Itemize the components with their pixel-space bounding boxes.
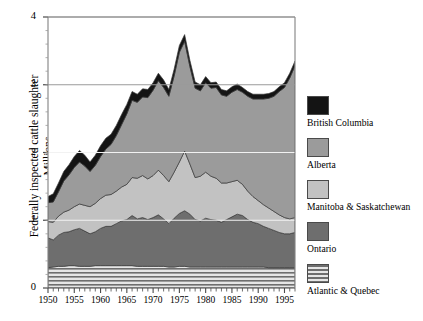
legend-label: Alberta (307, 159, 336, 170)
y-tick-label: 4 (22, 10, 36, 21)
legend-label: British Columbia (307, 117, 373, 128)
legend-label: Atlantic & Quebec (307, 285, 379, 296)
legend-item: Alberta (307, 138, 336, 170)
x-tick-label: 1995 (269, 295, 299, 305)
area-atlantic-quebec (48, 266, 295, 288)
chart-figure: Federally inspected cattle slaughter Mil… (0, 0, 423, 321)
legend-swatch (307, 96, 329, 115)
legend-swatch (307, 180, 329, 199)
legend-item: Atlantic & Quebec (307, 264, 379, 296)
y-tick-label: 2 (22, 146, 36, 157)
legend-swatch (307, 222, 329, 241)
y-tick-label: 1 (22, 213, 36, 224)
legend-label: Ontario (307, 243, 336, 254)
legend-item: British Columbia (307, 96, 373, 128)
y-tick-label: 0 (22, 281, 36, 292)
legend-swatch (307, 138, 329, 157)
legend-label: Manitoba & Saskatchewan (307, 201, 410, 212)
legend-item: Ontario (307, 222, 336, 254)
legend-swatch (307, 264, 329, 283)
legend-item: Manitoba & Saskatchewan (307, 180, 410, 212)
y-tick-label: 3 (22, 78, 36, 89)
